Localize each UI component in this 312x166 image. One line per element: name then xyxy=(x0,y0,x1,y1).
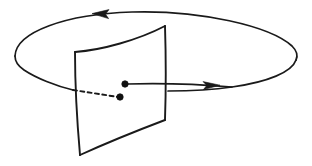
section-right-edge xyxy=(165,26,166,120)
figure-canvas xyxy=(0,0,312,166)
poincare-section-figure xyxy=(0,0,312,166)
section-left-edge xyxy=(75,52,80,155)
section-bottom-edge xyxy=(80,120,165,155)
section-top-edge xyxy=(75,26,165,52)
trajectory-hidden-segment xyxy=(73,90,118,97)
return-point-marker xyxy=(122,81,128,87)
orbit-far-arc xyxy=(15,12,297,60)
orbit-near-arc-left xyxy=(15,56,73,90)
start-point-marker xyxy=(117,94,123,100)
